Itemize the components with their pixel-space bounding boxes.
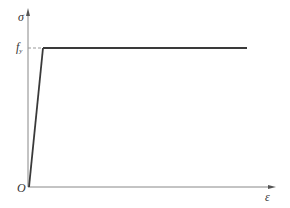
diagram-graphics: [0, 0, 290, 208]
yield-label-sub: y: [19, 47, 22, 55]
x-axis-label: ε: [265, 191, 270, 203]
origin-label: O: [17, 182, 26, 194]
y-axis-label: σ: [18, 11, 24, 23]
stress-strain-diagram: σ fy O ε: [0, 0, 290, 208]
y-axis-arrow-icon: [26, 8, 30, 16]
yield-strength-label: fy: [16, 41, 22, 55]
elastic-branch: [29, 48, 43, 187]
x-axis-arrow-icon: [268, 185, 276, 189]
